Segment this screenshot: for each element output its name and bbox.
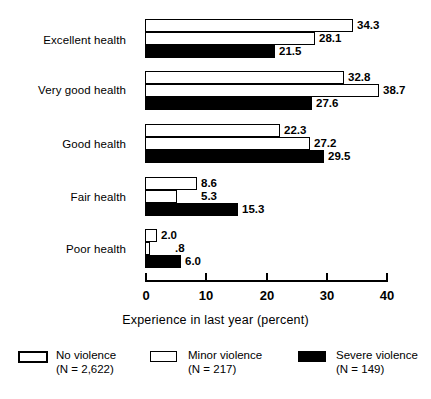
- bar-excellent-severe-violence: [145, 45, 275, 58]
- bar-value-excellent-no-violence: 34.3: [357, 19, 379, 32]
- bar-value-fair-severe-violence: 15.3: [242, 203, 264, 216]
- bar-fair-minor-violence: [145, 190, 177, 203]
- bar-fair-no-violence: [145, 177, 197, 190]
- bar-excellent-minor-violence: [145, 32, 315, 45]
- bar-value-good-severe-violence: 29.5: [328, 150, 350, 163]
- bar-value-verygood-no-violence: 32.8: [348, 71, 370, 84]
- x-axis-line: [145, 280, 388, 282]
- legend-label-severe-violence: Severe violence: [336, 348, 418, 362]
- bar-poor-minor-violence: [145, 242, 150, 255]
- bar-verygood-no-violence: [145, 71, 344, 84]
- legend: No violence (N = 2,622) Minor violence (…: [0, 348, 431, 396]
- x-axis-tick-label-0: 0: [130, 288, 162, 303]
- plot-area: Excellent health Very good health Good h…: [0, 0, 431, 275]
- bar-good-severe-violence: [145, 150, 324, 163]
- x-axis-tick-40: [386, 273, 388, 280]
- bar-value-fair-no-violence: 8.6: [201, 177, 217, 190]
- legend-swatch-no-violence-icon: [18, 351, 48, 363]
- bar-value-excellent-minor-violence: 28.1: [319, 32, 341, 45]
- bar-good-no-violence: [145, 124, 280, 137]
- bar-good-minor-violence: [145, 137, 310, 150]
- category-label-very-good-health: Very good health: [0, 84, 126, 96]
- category-label-poor-health: Poor health: [0, 243, 126, 255]
- bar-poor-severe-violence: [145, 255, 181, 268]
- x-axis-title: Experience in last year (percent): [0, 313, 431, 327]
- x-axis-tick-0: [145, 273, 147, 280]
- grouped-bar-chart: Excellent health Very good health Good h…: [0, 0, 431, 399]
- x-axis-tick-label-40: 40: [371, 288, 403, 303]
- legend-swatch-minor-violence-icon: [150, 351, 177, 362]
- category-label-fair-health: Fair health: [0, 191, 126, 203]
- category-label-good-health: Good health: [0, 138, 126, 150]
- legend-n-no-violence: (N = 2,622): [56, 362, 116, 376]
- x-axis-tick-label-30: 30: [311, 288, 343, 303]
- category-label-excellent-health: Excellent health: [0, 34, 126, 46]
- bar-value-fair-minor-violence: 5.3: [201, 190, 217, 203]
- bar-verygood-minor-violence: [145, 84, 379, 97]
- bar-value-good-minor-violence: 27.2: [314, 137, 336, 150]
- bar-fair-severe-violence: [145, 203, 238, 216]
- bar-value-poor-minor-violence: .8: [175, 242, 185, 255]
- x-axis-tick-label-20: 20: [251, 288, 283, 303]
- bar-value-poor-no-violence: 2.0: [161, 229, 177, 242]
- bar-value-verygood-severe-violence: 27.6: [316, 97, 338, 110]
- legend-label-minor-violence: Minor violence: [188, 348, 262, 362]
- bar-value-good-no-violence: 22.3: [284, 124, 306, 137]
- bar-value-verygood-minor-violence: 38.7: [383, 84, 405, 97]
- legend-swatch-severe-violence-icon: [298, 351, 326, 362]
- x-axis-tick-label-10: 10: [190, 288, 222, 303]
- bar-value-poor-severe-violence: 6.0: [185, 255, 201, 268]
- bar-excellent-no-violence: [145, 19, 353, 32]
- legend-label-no-violence: No violence: [56, 348, 116, 362]
- legend-n-severe-violence: (N = 149): [336, 362, 418, 376]
- legend-n-minor-violence: (N = 217): [188, 362, 262, 376]
- x-axis-tick-20: [266, 273, 268, 280]
- bar-value-excellent-severe-violence: 21.5: [279, 45, 301, 58]
- x-axis-tick-10: [205, 273, 207, 280]
- x-axis-tick-30: [326, 273, 328, 280]
- bar-poor-no-violence: [145, 229, 157, 242]
- bar-verygood-severe-violence: [145, 97, 312, 110]
